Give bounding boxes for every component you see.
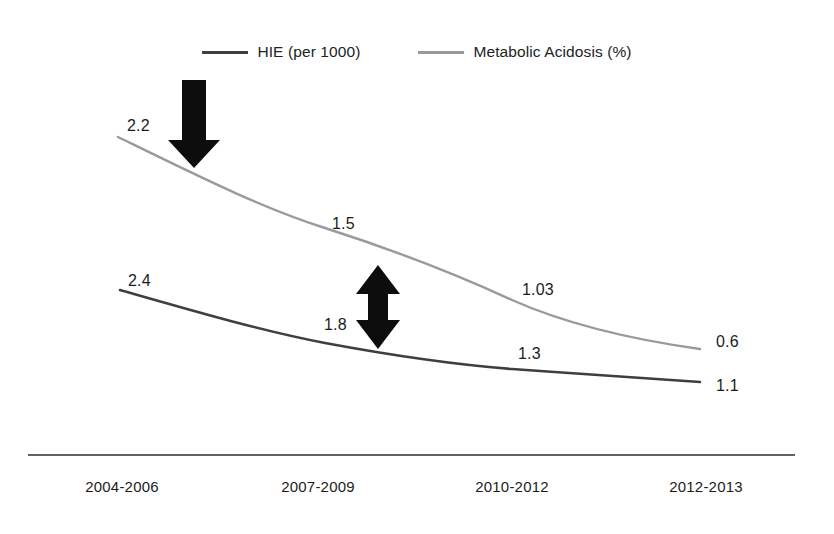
value-label-metabolic-acidosis-2004-2006: 2.2 [127, 117, 150, 135]
category-label-2004-2006: 2004-2006 [85, 478, 159, 495]
value-label-metabolic-acidosis-2007-2009: 1.5 [332, 215, 355, 233]
value-label-hie-2004-2006: 2.4 [128, 272, 151, 290]
value-label-metabolic-acidosis-2010-2012: 1.03 [522, 281, 554, 299]
value-label-hie-2012-2013: 1.1 [716, 377, 739, 395]
value-label-hie-2007-2009: 1.8 [324, 316, 347, 334]
value-label-hie-2010-2012: 1.3 [518, 345, 541, 363]
value-label-metabolic-acidosis-2012-2013: 0.6 [716, 333, 739, 351]
category-label-2010-2012: 2010-2012 [475, 478, 549, 495]
category-axis: 2004-2006 2007-2009 2010-2012 2012-2013 [0, 478, 834, 502]
series-line-hie [120, 290, 700, 382]
down-arrow-annotation-icon [168, 80, 220, 168]
plot-area [0, 0, 834, 534]
series-line-metabolic-acidosis [118, 137, 700, 349]
category-label-2007-2009: 2007-2009 [281, 478, 355, 495]
category-label-2012-2013: 2012-2013 [669, 478, 743, 495]
chart-figure: HIE (per 1000) Metabolic Acidosis (%) 2.… [0, 0, 834, 534]
double-headed-arrow-annotation-icon [356, 265, 400, 349]
